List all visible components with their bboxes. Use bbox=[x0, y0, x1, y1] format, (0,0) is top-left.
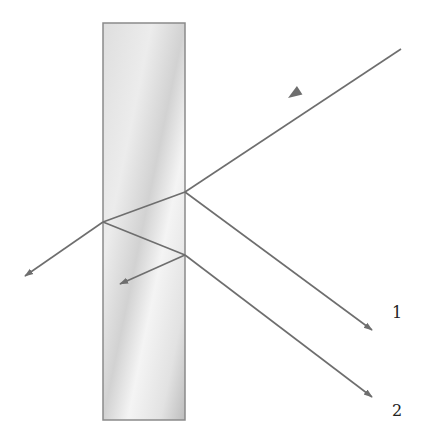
label-1: 1 bbox=[392, 303, 402, 322]
glass-slab bbox=[103, 23, 185, 420]
ray-incident bbox=[185, 49, 401, 192]
ray-group bbox=[25, 49, 401, 397]
ray-reflected-1 bbox=[185, 192, 372, 330]
label-group: 12 bbox=[392, 303, 402, 420]
slab-ray-diagram: 12 bbox=[0, 0, 430, 433]
arrowhead-icon bbox=[288, 86, 302, 98]
label-2: 2 bbox=[392, 401, 402, 420]
ray-ray-2 bbox=[185, 255, 372, 397]
ray-transmitted-left bbox=[25, 222, 103, 276]
